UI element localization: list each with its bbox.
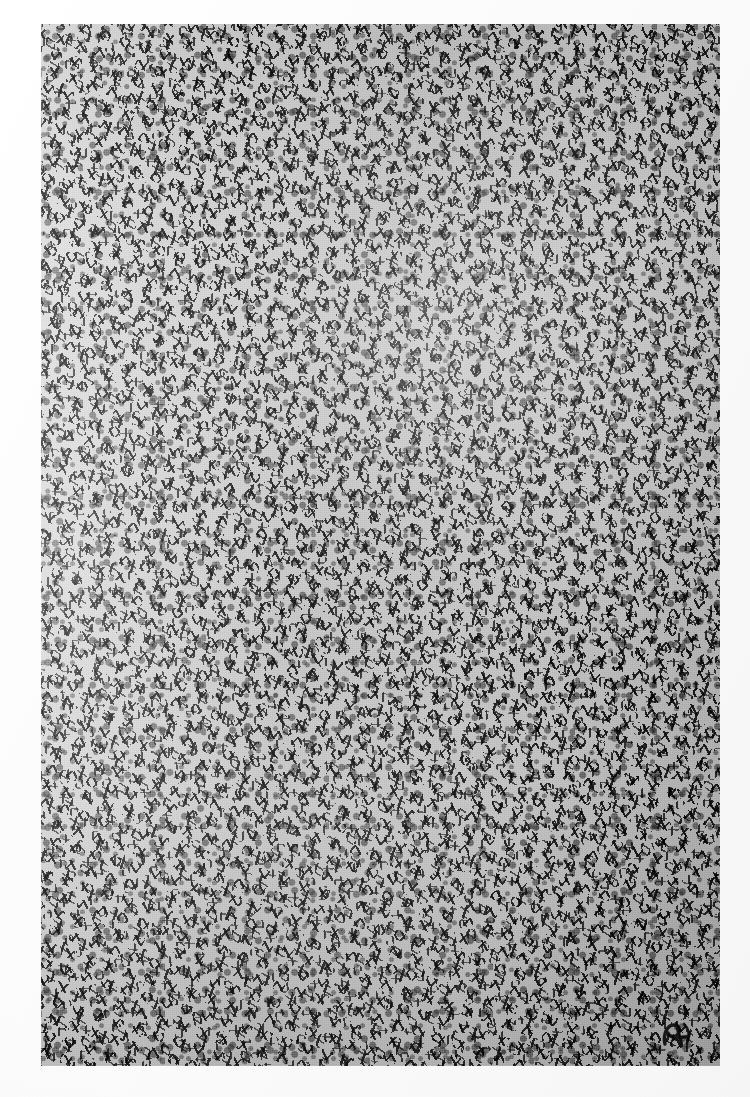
paper-ground [41, 24, 720, 1066]
artwork-page: left-margin top-margin right-margin bott… [0, 0, 750, 1097]
artwork-plate [41, 24, 720, 1066]
